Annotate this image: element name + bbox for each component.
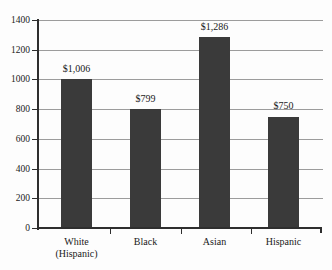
gridline-1200 [38, 50, 323, 51]
x-tick-3 [251, 229, 252, 234]
category-label-line1: Black [106, 236, 186, 248]
bar-asian [199, 37, 230, 228]
bar-chart: 1400 1200 1000 800 600 400 200 0 $1,006 … [0, 0, 332, 270]
bar-value-asian: $1,286 [183, 22, 247, 32]
category-label-line1: Hispanic [244, 236, 324, 248]
y-tick-label-1000: 1000 [0, 75, 30, 85]
y-tick-label-400: 400 [0, 165, 30, 175]
y-tick-label-1400: 1400 [0, 16, 30, 26]
bar-value-white-hispanic: $1,006 [45, 64, 109, 74]
y-tick-label-600: 600 [0, 135, 30, 145]
category-label-line1: White [37, 236, 117, 248]
gridline-1400 [38, 20, 323, 21]
x-axis-line [38, 227, 322, 229]
category-label-white-hispanic: White (Hispanic) [37, 236, 117, 260]
bar-black [130, 109, 161, 228]
x-tick-1 [110, 229, 111, 234]
x-tick-2 [181, 229, 182, 234]
x-axis-end-tick [320, 227, 322, 233]
y-tick-label-0: 0 [0, 224, 30, 234]
category-label-black: Black [106, 236, 186, 248]
y-tick-200 [32, 198, 38, 199]
y-tick-1000 [32, 79, 38, 80]
bar-value-hispanic: $750 [252, 101, 316, 111]
bar-white-hispanic [61, 79, 92, 228]
y-tick-0 [32, 228, 38, 229]
category-label-asian: Asian [175, 236, 255, 248]
y-tick-800 [32, 109, 38, 110]
category-label-line1: Asian [175, 236, 255, 248]
bar-hispanic [268, 117, 299, 228]
y-tick-400 [32, 169, 38, 170]
category-label-line2: (Hispanic) [37, 248, 117, 260]
y-tick-600 [32, 139, 38, 140]
plot-area [38, 20, 323, 228]
y-tick-label-800: 800 [0, 105, 30, 115]
bar-value-black: $799 [114, 94, 178, 104]
y-tick-label-1200: 1200 [0, 46, 30, 56]
y-tick-1400 [32, 20, 38, 21]
category-label-hispanic: Hispanic [244, 236, 324, 248]
y-tick-1200 [32, 50, 38, 51]
y-tick-label-200: 200 [0, 194, 30, 204]
